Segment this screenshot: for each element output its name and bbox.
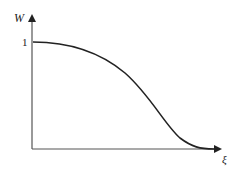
curve	[33, 42, 214, 149]
x-axis-label: ξ	[222, 153, 227, 166]
y-tick-label: 1	[22, 36, 28, 48]
diagram-canvas: W 1 ξ	[0, 0, 232, 172]
y-axis-label: W	[14, 11, 25, 25]
